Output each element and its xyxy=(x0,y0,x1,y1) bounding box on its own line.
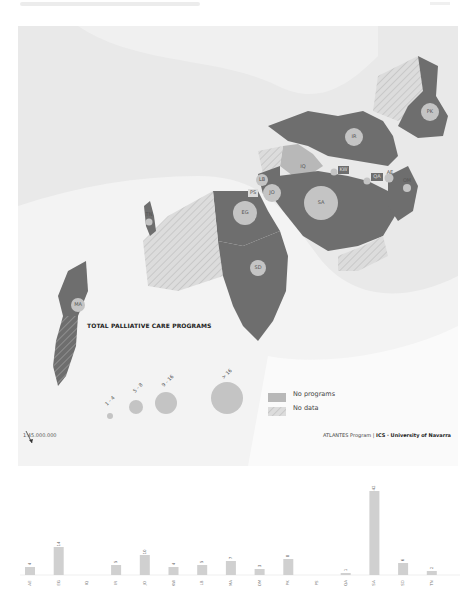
bar-qa xyxy=(341,573,351,575)
legend-swatch-no-programs xyxy=(268,393,286,402)
bubble-pk: PK xyxy=(421,103,439,121)
bubble-sd: SD xyxy=(250,260,266,276)
legend-label-no-data: No data xyxy=(293,404,319,412)
map-canvas: PK IR IQ KW QA AE OM LB PS JO SA EG SD T… xyxy=(18,26,458,466)
legend-size-5-8 xyxy=(129,400,143,414)
svg-text:KW: KW xyxy=(339,166,347,172)
svg-text:PK: PK xyxy=(427,108,434,114)
x-axis-label: IR xyxy=(113,581,118,585)
x-axis-label: TN xyxy=(429,580,434,586)
legend-size-1-4 xyxy=(107,413,113,419)
bar-value-label: 4 xyxy=(27,562,32,565)
svg-text:EG: EG xyxy=(241,209,248,215)
bar-value-label: 7 xyxy=(228,556,233,559)
bar-sa xyxy=(369,491,379,575)
bar-value-label: 2 xyxy=(429,566,434,569)
bar-value-label: 5 xyxy=(113,560,118,563)
x-axis-label: MA xyxy=(228,580,233,586)
bar-tn xyxy=(427,571,437,575)
svg-text:LB: LB xyxy=(259,176,266,182)
bar-pk xyxy=(283,559,293,575)
x-axis-label: IQ xyxy=(84,581,89,585)
svg-text:OM: OM xyxy=(403,177,411,183)
legend-label-no-programs: No programs xyxy=(293,390,335,398)
x-axis-label: LB xyxy=(199,580,204,585)
bubble-lb: LB xyxy=(256,174,268,186)
bar-value-label: 6 xyxy=(400,558,405,561)
credit-program: ATLANTES Program xyxy=(323,432,371,438)
label-ps: PS xyxy=(248,189,258,197)
svg-text:JO: JO xyxy=(268,189,274,195)
map: PK IR IQ KW QA AE OM LB PS JO SA EG SD T… xyxy=(18,26,458,466)
map-credit: ATLANTES Program | ICS · University of N… xyxy=(323,432,451,438)
bar-value-label: 1 xyxy=(343,568,348,571)
legend-size-9-16 xyxy=(155,392,177,414)
bar-value-label: 14 xyxy=(56,541,61,547)
bubble-eg: EG xyxy=(233,201,257,225)
bar-om xyxy=(255,569,265,575)
header-page-number xyxy=(430,2,450,5)
x-axis-label: SA xyxy=(371,580,376,586)
legend-size-gt16 xyxy=(211,382,243,414)
svg-text:AE: AE xyxy=(387,169,394,175)
x-axis-label: PK xyxy=(285,580,290,585)
bar-value-label: 3 xyxy=(257,564,262,567)
credit-separator: | xyxy=(373,432,375,438)
credit-org: ICS · University of Navarra xyxy=(376,432,451,438)
label-iq: IQ xyxy=(300,163,305,169)
bar-value-label: 4 xyxy=(171,562,176,565)
svg-text:MA: MA xyxy=(74,301,82,307)
header-blurred-text xyxy=(20,2,200,6)
bar-value-label: 42 xyxy=(371,485,376,491)
x-axis-label: PS xyxy=(314,580,319,585)
bar-kw xyxy=(169,567,179,575)
bar-value-label: 5 xyxy=(199,560,204,563)
bubble-jo: JO xyxy=(263,184,281,202)
bar-value-label: 10 xyxy=(142,549,147,555)
legend-title: TOTAL PALLIATIVE CARE PROGRAMS xyxy=(87,322,212,329)
legend-swatch-no-data xyxy=(268,407,286,416)
svg-text:QA: QA xyxy=(373,173,381,179)
bar-chart: 4AE14EGIQ5IR10JO4KW5LB7MA3OM8PKPS1QA42SA… xyxy=(15,475,465,595)
bar-jo xyxy=(140,555,150,575)
bar-value-label: 8 xyxy=(285,554,290,557)
x-axis-label: JO xyxy=(142,581,147,586)
svg-text:TN: TN xyxy=(145,211,153,217)
svg-text:PS: PS xyxy=(250,189,256,195)
bar-sd xyxy=(398,563,408,575)
svg-text:SA: SA xyxy=(318,199,325,205)
bubble-sa: SA xyxy=(304,186,338,220)
svg-text:IR: IR xyxy=(352,133,357,139)
x-axis-label: QA xyxy=(343,580,348,586)
bar-chart-canvas: 4AE14EGIQ5IR10JO4KW5LB7MA3OM8PKPS1QA42SA… xyxy=(15,475,465,595)
bar-ma xyxy=(226,561,236,575)
bar-ir xyxy=(111,565,121,575)
bubble-ae: AE xyxy=(385,169,394,182)
bar-ae xyxy=(25,567,35,575)
bubble-ma: MA xyxy=(71,298,85,312)
svg-text:IQ: IQ xyxy=(300,163,305,169)
svg-text:SD: SD xyxy=(254,264,261,270)
x-axis-label: SD xyxy=(400,580,405,586)
x-axis-label: OM xyxy=(257,579,262,586)
x-axis-label: KW xyxy=(171,580,176,586)
x-axis-label: AE xyxy=(27,580,32,586)
bar-eg xyxy=(54,547,64,575)
bubble-ir: IR xyxy=(345,128,363,146)
bar-lb xyxy=(197,565,207,575)
x-axis-label: EG xyxy=(56,580,61,586)
map-scale: 1:45.000.000 xyxy=(23,432,57,438)
